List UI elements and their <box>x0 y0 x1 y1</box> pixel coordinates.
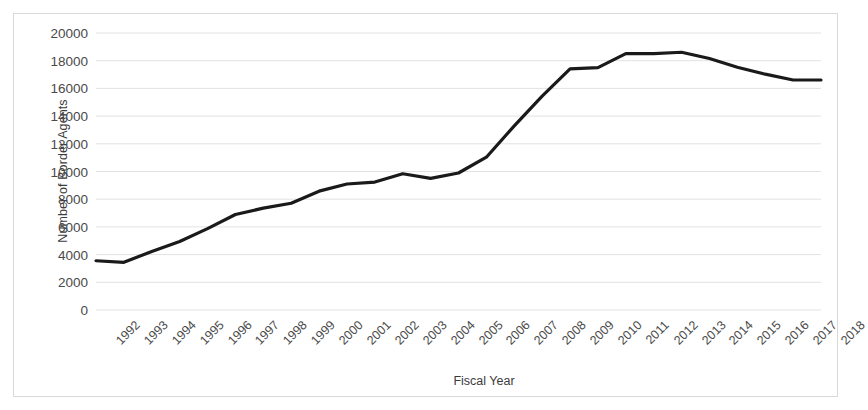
y-tick-label: 20000 <box>28 26 88 41</box>
y-tick-label: 14000 <box>28 109 88 124</box>
y-tick-label: 18000 <box>28 53 88 68</box>
y-tick-label: 0 <box>28 303 88 318</box>
y-tick-label: 12000 <box>28 136 88 151</box>
y-tick-label: 6000 <box>28 219 88 234</box>
data-series-line-group <box>96 52 821 262</box>
y-tick-label: 10000 <box>28 164 88 179</box>
data-series-line <box>96 52 821 262</box>
y-tick-label: 2000 <box>28 275 88 290</box>
y-tick-label: 16000 <box>28 81 88 96</box>
y-tick-label: 4000 <box>28 247 88 262</box>
y-tick-label: 8000 <box>28 192 88 207</box>
